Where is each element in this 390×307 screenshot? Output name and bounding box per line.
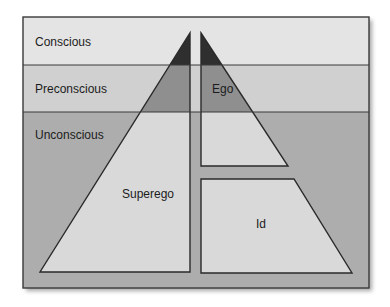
- label-conscious: Conscious: [35, 35, 91, 49]
- label-preconscious: Preconscious: [35, 82, 107, 96]
- label-unconscious: Unconscious: [35, 128, 104, 142]
- label-superego: Superego: [122, 187, 174, 201]
- label-id: Id: [256, 217, 266, 231]
- label-ego: Ego: [212, 82, 233, 96]
